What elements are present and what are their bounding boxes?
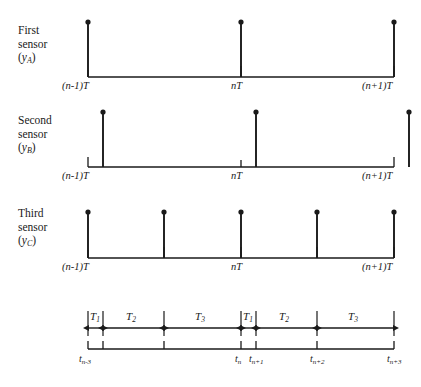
- figure-canvas: [0, 0, 421, 387]
- second-sensor-tick-label-1: nT: [231, 170, 242, 181]
- first-sensor-pulse-dot-0: [85, 19, 90, 24]
- first-sensor-pulse-dot-2: [391, 19, 396, 24]
- third-sensor-label-variable: (yC): [18, 234, 47, 249]
- timing-interval-label-5: T3: [348, 310, 358, 322]
- first-sensor-pulse-dot-1: [238, 19, 243, 24]
- timing-instant-label-3: tn+2: [310, 353, 325, 364]
- timing-interval-label-0: T1: [90, 310, 100, 322]
- third-sensor-tick-label-2: (n+1)T: [362, 261, 392, 272]
- third-sensor-pulse-dot-3: [314, 209, 319, 214]
- third-sensor-label: Third sensor (yC): [18, 207, 47, 249]
- timing-interval-label-2: T3: [195, 310, 205, 322]
- timing-instant-label-1: tn: [235, 353, 241, 364]
- second-sensor-label-variable: (yB): [18, 141, 52, 156]
- second-sensor-label-line2: sensor: [18, 128, 52, 142]
- timing-interval-label-3: T1: [243, 310, 253, 322]
- third-sensor-label-line2: sensor: [18, 221, 47, 235]
- timing-interval-label-4: T2: [279, 310, 289, 322]
- second-sensor-pulse-dot-0: [100, 109, 105, 114]
- first-sensor-tick-label-2: (n+1)T: [362, 80, 392, 91]
- third-sensor-tick-label-1: nT: [231, 261, 242, 272]
- third-sensor-pulse-dot-2: [238, 209, 243, 214]
- third-sensor-pulse-dot-1: [161, 209, 166, 214]
- second-sensor-label: Second sensor (yB): [18, 114, 52, 156]
- third-sensor-label-line1: Third: [18, 207, 47, 221]
- timing-interval-label-1: T2: [126, 310, 136, 322]
- third-sensor-pulse-dot-0: [85, 209, 90, 214]
- sampling-timing-figure: First sensor (yA): [0, 0, 421, 387]
- second-sensor-label-line1: Second: [18, 114, 52, 128]
- second-sensor-tick-label-0: (n-1)T: [62, 170, 89, 181]
- third-sensor-tick-label-0: (n-1)T: [62, 261, 89, 272]
- timing-instant-label-4: tn+3: [387, 353, 402, 364]
- first-sensor-tick-label-1: nT: [231, 80, 242, 91]
- second-sensor-tick-label-2: (n+1)T: [362, 170, 392, 181]
- third-sensor-pulse-dot-4: [391, 209, 396, 214]
- first-sensor-tick-label-0: (n-1)T: [62, 80, 89, 91]
- second-sensor-pulse-dot-1: [253, 109, 258, 114]
- timing-instant-label-0: tn-3: [79, 353, 91, 364]
- second-sensor-pulse-dot-2: [406, 109, 411, 114]
- timing-instant-label-2: tn+1: [249, 353, 264, 364]
